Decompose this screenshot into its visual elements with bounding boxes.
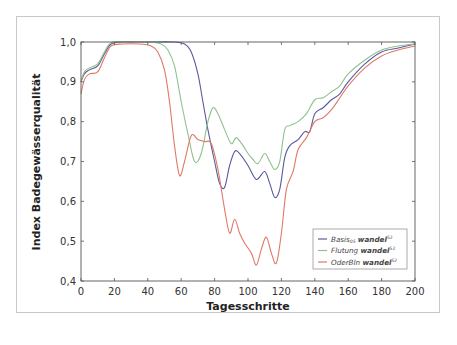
legend-label: Flutung wandel52 [331,246,395,255]
legend-label: Basis05 wandel52 [331,235,393,245]
x-tick-label: 40 [141,286,154,297]
legend: Basis05 wandel52Flutung wandel52OderBln … [313,229,407,269]
y-tick-label: 0,5 [60,236,76,247]
x-tick-label: 200 [405,286,424,297]
series-line-0 [81,42,415,198]
y-tick-label: 0,7 [60,156,76,167]
y-tick-label: 0,9 [60,76,76,87]
y-tick-label: 0,8 [60,116,76,127]
y-tick-label: 0,6 [60,196,76,207]
x-axis-title: Tagesschritte [206,300,289,313]
y-tick-label: 0,4 [60,276,76,287]
x-tick-label: 80 [208,286,221,297]
y-axis-title: Index Badegewässerqualität [30,74,43,251]
x-tick-label: 20 [108,286,121,297]
x-tick-label: 100 [238,286,257,297]
legend-label: OderBln wandel52 [331,258,397,267]
x-tick-label: 180 [372,286,391,297]
series-line-1 [81,42,415,170]
y-tick-label: 1,0 [60,37,76,48]
x-tick-label: 60 [175,286,188,297]
x-tick-label: 140 [305,286,324,297]
x-tick-label: 160 [339,286,358,297]
line-chart: 0204060801001201401601802000,40,50,60,70… [0,0,457,345]
x-tick-label: 120 [272,286,291,297]
x-tick-label: 0 [78,286,84,297]
